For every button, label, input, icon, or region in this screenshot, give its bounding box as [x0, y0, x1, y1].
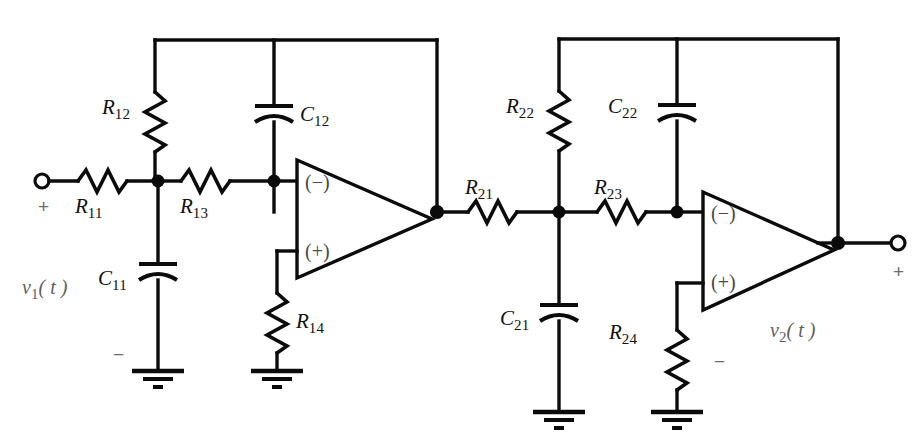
resistor-r13-symbol	[181, 170, 274, 192]
capacitor-c12-symbol	[255, 106, 293, 212]
label-c11-sub: 11	[112, 277, 127, 293]
capacitor-c11-symbol	[139, 264, 177, 371]
label-r23: R23	[594, 177, 622, 202]
stage2-node-a	[553, 206, 598, 306]
label-r23-letter: R	[594, 175, 607, 199]
opamp-a2-minus-label: (−)	[711, 203, 736, 223]
resistor-r12-symbol	[145, 92, 165, 181]
label-c12-letter: C	[300, 102, 314, 126]
stage2-output-node	[831, 236, 905, 250]
label-c11-letter: C	[98, 266, 112, 290]
input-minus-sign: −	[113, 345, 124, 364]
label-c21-letter: C	[500, 306, 514, 330]
input-signal-arg: ( t )	[39, 276, 68, 298]
stage1-output-node	[430, 205, 468, 219]
resistor-r22-symbol	[549, 91, 569, 212]
stage2-node-b	[671, 206, 704, 219]
ground-symbol-r14	[251, 371, 303, 387]
capacitor-c21-symbol	[540, 305, 578, 412]
input-terminal-group	[35, 174, 78, 188]
label-r23-sub: 23	[607, 186, 622, 202]
label-r21-letter: R	[465, 175, 478, 199]
label-r22-sub: 22	[519, 105, 534, 121]
input-signal-sub: 1	[31, 286, 39, 302]
opamp-a1-plus-branch	[277, 251, 297, 293]
label-r22-letter: R	[506, 94, 519, 118]
label-c12: C12	[300, 104, 329, 129]
label-r12-sub: 12	[115, 106, 130, 122]
label-c22-sub: 22	[622, 105, 637, 121]
output-signal-letter: v	[770, 319, 779, 341]
stage1-node-a	[152, 175, 182, 265]
label-r24-sub: 24	[622, 331, 637, 347]
output-signal-label: v2( t )	[770, 320, 815, 345]
opamp-a1-plus-label: (+)	[305, 241, 330, 261]
input-signal-letter: v	[22, 276, 31, 298]
label-r14-sub: 14	[309, 320, 324, 336]
resistor-r14-symbol	[267, 293, 287, 371]
ground-symbol-r24	[651, 412, 703, 428]
opamp-a2-plus-label: (+)	[711, 272, 736, 292]
output-minus-sign: −	[714, 352, 725, 371]
label-r12-letter: R	[102, 95, 115, 119]
label-r13-sub: 13	[193, 205, 208, 221]
output-signal-sub: 2	[779, 329, 787, 345]
resistor-r21-symbol	[468, 201, 559, 223]
label-r11-letter: R	[75, 194, 88, 218]
circuit-schematic-canvas	[0, 0, 923, 444]
ground-symbol-c21	[533, 412, 585, 428]
label-c22-letter: C	[608, 94, 622, 118]
label-r13: R13	[180, 196, 208, 221]
opamp-a2-plus-branch	[677, 283, 703, 330]
label-r14: R14	[296, 311, 324, 336]
label-r21: R21	[465, 177, 493, 202]
label-r14-letter: R	[296, 309, 309, 333]
input-plus-sign: +	[38, 197, 49, 216]
label-r22: R22	[506, 96, 534, 121]
label-c22: C22	[608, 96, 637, 121]
resistor-r11-symbol	[78, 170, 158, 192]
ground-symbol-c11	[132, 371, 184, 387]
output-signal-arg: ( t )	[787, 319, 816, 341]
resistor-r24-symbol	[667, 330, 687, 412]
label-r11: R11	[75, 196, 103, 221]
label-c21-sub: 21	[514, 317, 529, 333]
stage1-node-b	[268, 175, 298, 188]
label-r13-letter: R	[180, 194, 193, 218]
input-signal-label: v1( t )	[22, 277, 67, 302]
capacitor-c22-symbol	[658, 105, 696, 212]
circuit-diagram: R12 C12 R11 R13 C11 R14 R22 C22 R21 R23 …	[0, 0, 923, 444]
label-c21: C21	[500, 308, 529, 333]
opamp-a1-minus-label: (−)	[305, 172, 330, 192]
label-r12: R12	[102, 97, 130, 122]
label-r24: R24	[609, 322, 637, 347]
resistor-r23-symbol	[597, 201, 677, 223]
label-r21-sub: 21	[478, 186, 493, 202]
label-c11: C11	[98, 268, 127, 293]
label-r24-letter: R	[609, 320, 622, 344]
label-c12-sub: 12	[314, 113, 329, 129]
output-plus-sign: +	[893, 262, 904, 281]
label-r11-sub: 11	[88, 205, 103, 221]
